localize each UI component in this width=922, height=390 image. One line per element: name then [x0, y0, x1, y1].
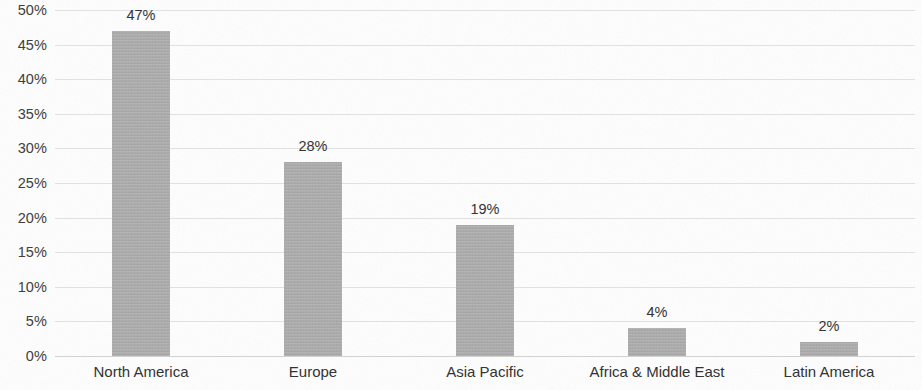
y-tick-label: 15%: [0, 244, 47, 260]
x-tick-label: Latin America: [719, 362, 922, 382]
bar-chart: 50%45%40%35%30%25%20%15%10%5%0% 47%28%19…: [0, 0, 922, 390]
gridline-40: [55, 79, 915, 80]
y-tick-label: 25%: [0, 175, 47, 191]
y-tick-label: 35%: [0, 106, 47, 122]
y-tick-label: 50%: [0, 2, 47, 18]
bar-value-label: 47%: [96, 7, 186, 23]
gridline-45: [55, 45, 915, 46]
gridline-25: [55, 183, 915, 184]
bar[interactable]: [628, 328, 686, 356]
x-axis: North AmericaEuropeAsia PacificAfrica & …: [0, 362, 922, 390]
bar-value-label: 4%: [612, 304, 702, 320]
y-tick-label: 20%: [0, 210, 47, 226]
bar[interactable]: [284, 162, 342, 356]
gridline-0: [55, 356, 915, 357]
gridline-30: [55, 148, 915, 149]
gridline-20: [55, 218, 915, 219]
bar-value-label: 19%: [440, 201, 530, 217]
bar-value-label: 28%: [268, 138, 358, 154]
bar-value-label: 2%: [784, 318, 874, 334]
plot-area: 47%28%19%4%2%: [55, 10, 915, 356]
bar[interactable]: [800, 342, 858, 356]
y-tick-label: 30%: [0, 140, 47, 156]
y-tick-label: 40%: [0, 71, 47, 87]
y-tick-label: 5%: [0, 313, 47, 329]
bar[interactable]: [112, 31, 170, 356]
y-tick-label: 45%: [0, 37, 47, 53]
y-axis: 50%45%40%35%30%25%20%15%10%5%0%: [0, 0, 47, 390]
y-tick-label: 10%: [0, 279, 47, 295]
bar[interactable]: [456, 225, 514, 356]
gridline-35: [55, 114, 915, 115]
